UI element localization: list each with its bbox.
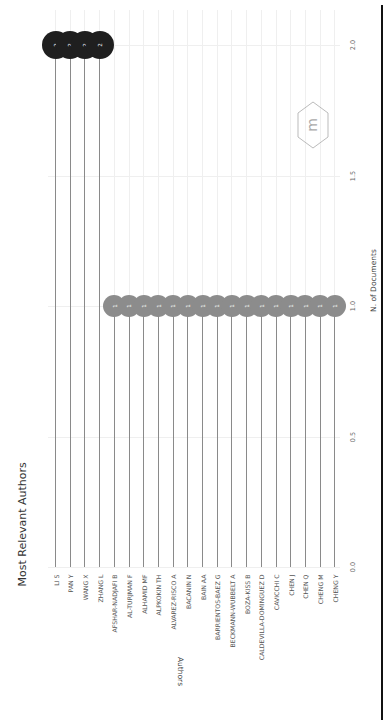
dot-value: 1 (317, 304, 323, 308)
bibliometrix-logo: m (296, 100, 330, 150)
lollipop-stem (305, 306, 306, 567)
dot-value: 1 (155, 304, 161, 308)
x-tick-label: 2.0 (349, 35, 357, 55)
author-label: BARRIENTOS-BAEZ G (214, 575, 221, 685)
lollipop-stem (320, 306, 321, 567)
dot-value: 1 (302, 304, 308, 308)
x-tick-label: 1.5 (349, 166, 357, 186)
dot-value: 1 (200, 304, 206, 308)
author-label: LI S (52, 575, 59, 685)
dot-value: 1 (288, 304, 294, 308)
x-tick-label: 0.5 (349, 427, 357, 447)
lollipop-stem (334, 306, 335, 567)
author-label: PAN Y (67, 575, 74, 685)
lollipop-stem (99, 45, 100, 567)
lollipop-stem (129, 306, 130, 567)
lollipop-stem (114, 306, 115, 567)
author-label: AL-TURJMAN F (126, 575, 133, 685)
lollipop-dot[interactable]: 1 (324, 295, 346, 317)
author-label: ALHAMID MF (140, 575, 147, 685)
chart-title: Most Relevant Authors (16, 467, 29, 587)
author-label: CALDEVILLA-DOMINGUEZ D (258, 575, 265, 685)
author-label: CHENG M (317, 575, 324, 685)
lollipop-dot[interactable]: 2 (86, 31, 114, 59)
author-label: WANG X (81, 575, 88, 685)
dot-value: 1 (229, 304, 235, 308)
author-label: CAVICCHI C (273, 575, 280, 685)
dot-value: 1 (170, 304, 176, 308)
author-label: CHENG Y (331, 575, 338, 685)
lollipop-stem (55, 45, 56, 567)
dot-value: 1 (185, 304, 191, 308)
lollipop-stem (70, 45, 71, 567)
y-axis-title: Authors (176, 652, 185, 692)
value-gridline (48, 567, 340, 568)
author-label: CHEN J (287, 575, 294, 685)
x-tick-label: 1.0 (349, 296, 357, 316)
dot-value: 1 (244, 304, 250, 308)
dot-value: 1 (141, 304, 147, 308)
author-label: ALPKOKIN TH (155, 575, 162, 685)
dot-value: 1 (214, 304, 220, 308)
lollipop-stem (261, 306, 262, 567)
x-tick-label: 0.0 (349, 557, 357, 577)
dot-value: 1 (332, 304, 338, 308)
frame-border (381, 5, 383, 720)
lollipop-stem (231, 306, 232, 567)
lollipop-stem (217, 306, 218, 567)
author-label: BECKMANN-WUBBELT A (228, 575, 235, 685)
value-gridline (48, 176, 340, 177)
author-label: BACANIN N (184, 575, 191, 685)
dot-value: 1 (273, 304, 279, 308)
author-label: BOZA-KISS B (243, 575, 250, 685)
lollipop-stem (202, 306, 203, 567)
svg-text:m: m (304, 118, 320, 132)
lollipop-stem (173, 306, 174, 567)
lollipop-stem (143, 306, 144, 567)
x-axis-title: N. of Documents (369, 236, 378, 326)
lollipop-stem (187, 306, 188, 567)
lollipop-stem (276, 306, 277, 567)
value-gridline (48, 437, 340, 438)
lollipop-stem (246, 306, 247, 567)
dot-value: 2 (97, 43, 103, 47)
dot-value: 1 (258, 304, 264, 308)
lollipop-stem (158, 306, 159, 567)
author-label: AFSHAR-NADJAFI B (111, 575, 118, 685)
dot-value: 1 (126, 304, 132, 308)
dot-value: 1 (111, 304, 117, 308)
lollipop-stem (84, 45, 85, 567)
author-label: BAIN AA (199, 575, 206, 685)
author-label: ZHANG L (96, 575, 103, 685)
author-label: CHEN Q (302, 575, 309, 685)
lollipop-stem (290, 306, 291, 567)
